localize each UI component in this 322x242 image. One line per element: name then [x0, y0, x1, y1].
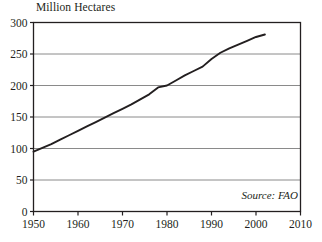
data-series	[34, 34, 265, 151]
x-tick-label: 1990	[200, 218, 223, 230]
axis-ticks	[30, 23, 301, 216]
y-tick-label: 100	[10, 143, 27, 155]
x-tick-label: 1960	[67, 218, 90, 230]
y-tick-label: 300	[10, 17, 27, 29]
chart-figure: Million Hectares 050100150200250300 1950…	[0, 0, 322, 242]
x-tick-label: 2000	[245, 218, 268, 230]
y-tick-label: 0	[22, 206, 28, 218]
y-tick-label: 250	[10, 48, 27, 60]
plot-area	[0, 0, 322, 242]
gridlines	[34, 54, 301, 180]
x-tick-label: 1950	[22, 218, 45, 230]
y-tick-label: 200	[10, 80, 27, 92]
x-tick-label: 1970	[111, 218, 134, 230]
series-line	[34, 34, 265, 151]
y-tick-label: 50	[16, 174, 28, 186]
y-tick-label: 150	[10, 111, 27, 123]
x-tick-label: 1980	[156, 218, 179, 230]
source-annotation: Source: FAO	[241, 189, 298, 201]
x-tick-label: 2010	[289, 218, 312, 230]
